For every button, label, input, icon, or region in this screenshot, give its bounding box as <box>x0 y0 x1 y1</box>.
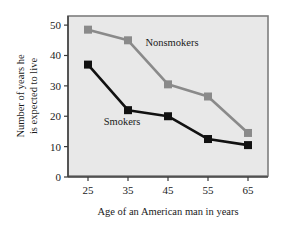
y-tick-label: 50 <box>50 19 62 31</box>
data-point-marker-nonsmokers <box>124 36 132 44</box>
x-tick-label: 65 <box>243 184 255 196</box>
data-point-marker-nonsmokers <box>204 93 212 101</box>
y-tick-label: 20 <box>50 110 62 122</box>
data-point-marker-smokers <box>84 61 92 69</box>
data-point-marker-smokers <box>244 141 252 149</box>
y-axis-title-line-2: is expected to live <box>28 58 39 134</box>
data-point-marker-smokers <box>204 135 212 143</box>
y-tick-label: 10 <box>50 141 62 153</box>
chart-figure: 01020304050 2535455565 NonsmokersSmokers… <box>0 0 281 239</box>
data-point-marker-nonsmokers <box>164 80 172 88</box>
x-tick-label: 35 <box>123 184 135 196</box>
x-tick-label: 55 <box>203 184 215 196</box>
data-point-marker-smokers <box>124 106 132 114</box>
x-tick-label: 25 <box>83 184 95 196</box>
y-tick-label: 30 <box>50 80 62 92</box>
series-label-nonsmokers: Nonsmokers <box>145 37 198 48</box>
data-point-marker-nonsmokers <box>84 26 92 34</box>
data-point-marker-smokers <box>164 112 172 120</box>
y-tick-label: 0 <box>56 171 62 183</box>
series-label-smokers: Smokers <box>104 116 141 127</box>
y-axis-title-line-1: Number of years he <box>15 54 26 137</box>
line-chart: 01020304050 2535455565 NonsmokersSmokers… <box>0 0 281 239</box>
x-axis-title: Age of an American man in years <box>97 206 238 217</box>
x-tick-label: 45 <box>163 184 175 196</box>
data-point-marker-nonsmokers <box>244 129 252 137</box>
y-tick-label: 40 <box>50 49 62 61</box>
